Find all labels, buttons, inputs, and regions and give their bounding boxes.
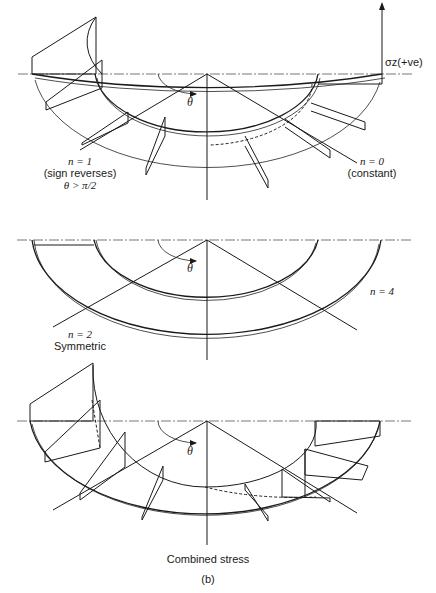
n1-label-condition: θ > π/2 (40, 179, 120, 191)
n0-label-note: (constant) (342, 167, 402, 179)
combined-stress-title: Combined stress (158, 553, 258, 565)
n0-label: n = 0 (constant) (342, 155, 402, 179)
n1-label: n = 1 (sign reverses) θ > π/2 (40, 155, 120, 191)
theta-label-middle: θ (187, 262, 193, 274)
theta-label-top: θ (187, 96, 193, 108)
panel-bottom-combined (17, 363, 412, 545)
figure-caption: (b) (198, 573, 218, 585)
theta-label-bottom: θ (187, 445, 193, 457)
n0-label-title: n = 0 (342, 155, 402, 167)
sigma-z-axis-label: σz(+ve) (385, 56, 423, 68)
n2-label-title: n = 2 (50, 328, 110, 340)
n1-label-note: (sign reverses) (40, 167, 120, 179)
n4-label: n = 4 (370, 285, 394, 297)
n2-label: n = 2 Symmetric (50, 328, 110, 352)
n2-label-note: Symmetric (50, 340, 110, 352)
n1-label-title: n = 1 (40, 155, 120, 167)
